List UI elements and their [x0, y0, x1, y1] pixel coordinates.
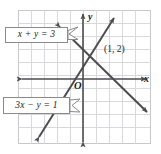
origin-label: O [74, 81, 82, 92]
callout-label-sum: x + y = 3 [5, 27, 68, 43]
graph-canvas [0, 0, 161, 154]
coordinate-graph-figure: x + y = 3 3x − y = 1 y x O (1, 2) [0, 0, 161, 154]
x-axis-label: x [144, 74, 149, 84]
intersection-point-label: (1, 2) [104, 45, 125, 55]
y-axis-label: y [88, 12, 92, 22]
callout-label-diff: 3x − y = 1 [3, 97, 70, 114]
